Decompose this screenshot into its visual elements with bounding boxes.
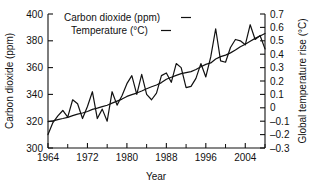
- left-tick-label-380: 380: [26, 35, 43, 46]
- legend-label-carbon-dioxide: Carbon dioxide (ppm): [64, 12, 160, 23]
- right-tick-label-9: 0.6: [270, 22, 284, 33]
- x-tick-label-1988: 1988: [155, 152, 178, 163]
- right-tick-label-6: 0.3: [270, 62, 284, 73]
- co2-temperature-line-chart: 300320340360380400 –0.3–0.2–0.100.10.20.…: [0, 0, 315, 186]
- left-tick-label-320: 320: [26, 116, 43, 127]
- x-tick-label-1996: 1996: [195, 152, 218, 163]
- x-tick-label-1964: 1964: [37, 152, 60, 163]
- right-tick-label-4: 0.1: [270, 89, 284, 100]
- legend-label-temperature: Temperature (°C): [71, 25, 148, 36]
- right-tick-label-7: 0.4: [270, 49, 284, 60]
- right-tick-label-10: 0.7: [270, 9, 284, 20]
- right-tick-label-1: –0.2: [270, 129, 290, 140]
- left-tick-label-340: 340: [26, 89, 43, 100]
- chart-figure: 300320340360380400 –0.3–0.2–0.100.10.20.…: [0, 0, 315, 186]
- x-tick-label-1972: 1972: [76, 152, 99, 163]
- x-tick-label-1980: 1980: [116, 152, 139, 163]
- left-tick-label-360: 360: [26, 62, 43, 73]
- left-axis-title: Carbon dioxide (ppm): [4, 33, 15, 129]
- right-tick-label-0: –0.3: [270, 143, 290, 154]
- right-tick-label-5: 0.2: [270, 76, 284, 87]
- x-tick-label-2004: 2004: [234, 152, 257, 163]
- x-axis-title: Year: [146, 171, 167, 182]
- right-tick-label-3: 0: [270, 102, 276, 113]
- right-tick-label-8: 0.5: [270, 35, 284, 46]
- left-tick-label-400: 400: [26, 9, 43, 20]
- right-tick-label-2: –0.1: [270, 116, 290, 127]
- right-axis-title: Global temperature rise (°C): [297, 18, 308, 143]
